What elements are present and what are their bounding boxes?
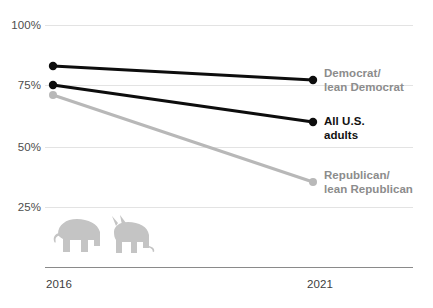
series-label-all-adults-line2: adults: [324, 129, 365, 143]
series-label-republican-line1: Republican/: [324, 169, 413, 183]
series-label-democrat-line1: Democrat/: [324, 67, 404, 81]
data-point-republican-2021: [309, 178, 317, 186]
series-line-all-adults: [53, 85, 313, 122]
series-label-republican: Republican/ lean Republican: [324, 169, 413, 196]
series-label-republican-line2: lean Republican: [324, 183, 413, 197]
series-line-republican: [53, 95, 313, 182]
series-line-democrat: [53, 66, 313, 80]
series-label-democrat-line2: lean Democrat: [324, 81, 404, 95]
data-point-democrat-2021: [309, 76, 317, 84]
series-label-all-adults-line1: All U.S.: [324, 115, 365, 129]
chart-container: 100% 75% 50% 25% 2016 2021: [0, 0, 433, 308]
series-label-all-adults: All U.S. adults: [324, 115, 365, 142]
series-label-democrat: Democrat/ lean Democrat: [324, 67, 404, 94]
data-point-republican-2016: [49, 91, 57, 99]
data-point-all-adults-2016: [49, 81, 57, 89]
plot-area: [0, 0, 433, 308]
data-point-democrat-2016: [49, 62, 57, 70]
data-point-all-adults-2021: [309, 118, 317, 126]
